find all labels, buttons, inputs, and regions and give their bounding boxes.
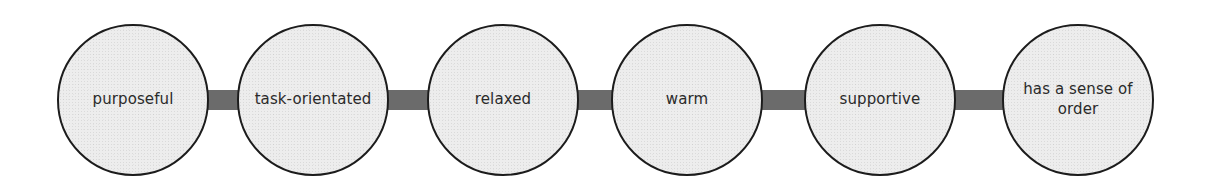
node-has-a-sense-of-order[interactable]: has a sense of order (1002, 24, 1154, 176)
node-label: supportive (816, 90, 944, 110)
node-warm[interactable]: warm (611, 24, 763, 176)
node-relaxed[interactable]: relaxed (427, 24, 579, 176)
node-label: relaxed (439, 90, 567, 110)
node-supportive[interactable]: supportive (804, 24, 956, 176)
node-purposeful[interactable]: purposeful (57, 24, 209, 176)
node-label: warm (623, 90, 751, 110)
node-label: has a sense of order (1014, 80, 1142, 120)
chain-diagram: purposeful task-orientated relaxed warm … (0, 0, 1205, 196)
node-label: task-orientated (249, 90, 377, 110)
node-label: purposeful (69, 90, 197, 110)
node-task-orientated[interactable]: task-orientated (237, 24, 389, 176)
